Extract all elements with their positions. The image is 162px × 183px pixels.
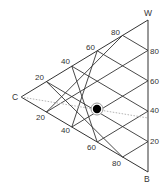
grid-lines-diag (46, 35, 122, 127)
ternary-diagram: C W B 20 40 60 80 20 40 60 80 80 60 40 2… (0, 0, 162, 183)
edge-label-r-40: 40 (150, 106, 159, 115)
edge-label-tl-20: 20 (35, 73, 44, 82)
edge-label-r-60: 60 (150, 77, 159, 86)
edge-label-bl-80: 80 (112, 159, 121, 168)
edge-label-r-20: 20 (150, 137, 159, 146)
edge-label-bl-60: 60 (87, 143, 96, 152)
edge-label-tl-60: 60 (86, 43, 95, 52)
vertex-label-w: W (144, 8, 152, 18)
edge-label-bl-20: 20 (36, 113, 45, 122)
edge-label-tl-40: 40 (61, 57, 70, 66)
triangle-outline (21, 20, 148, 172)
vertex-label-b: B (144, 174, 150, 183)
vertex-label-c: C (12, 92, 18, 102)
edge-label-r-80: 80 (150, 47, 159, 56)
edge-label-bl-40: 40 (61, 126, 70, 135)
sample-point[interactable] (93, 105, 101, 113)
edge-label-tl-80: 80 (111, 28, 120, 37)
